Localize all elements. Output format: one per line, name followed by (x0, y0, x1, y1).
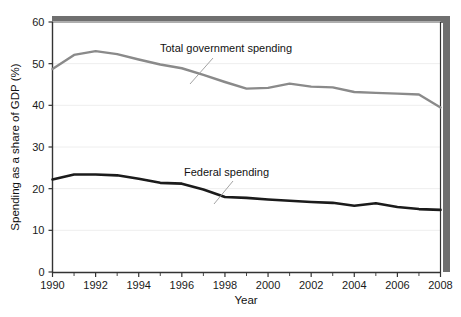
x-tick-label-1996: 1996 (170, 279, 194, 291)
y-tick-label-50: 50 (32, 58, 44, 70)
y-tick-label-30: 30 (32, 141, 44, 153)
y-tick-label-0: 0 (38, 266, 44, 278)
y-tick-label-10: 10 (32, 224, 44, 236)
shadow-band-right (443, 16, 450, 272)
x-tick-label-2000: 2000 (256, 279, 280, 291)
chart-figure: 0102030405060 19901992199419961998200020… (0, 0, 461, 317)
y-tick-label-60: 60 (32, 16, 44, 28)
annotation-total-government-spending: Total government spending (160, 42, 292, 54)
x-tick-label-1994: 1994 (126, 279, 150, 291)
x-tick-label-2008: 2008 (428, 279, 452, 291)
spending-share-of-gdp-line-chart: 0102030405060 19901992199419961998200020… (0, 0, 461, 317)
annotation-federal-spending: Federal spending (184, 166, 269, 178)
x-tick-label-2004: 2004 (342, 279, 366, 291)
x-tick-label-1992: 1992 (83, 279, 107, 291)
x-tick-label-2002: 2002 (299, 279, 323, 291)
x-tick-label-1990: 1990 (40, 279, 64, 291)
x-tick-label-2006: 2006 (385, 279, 409, 291)
y-tick-label-20: 20 (32, 183, 44, 195)
y-axis-title: Spending as a share of GDP (%) (9, 63, 21, 230)
x-axis-title: Year (234, 294, 257, 306)
y-tick-label-40: 40 (32, 99, 44, 111)
x-tick-label-1998: 1998 (213, 279, 237, 291)
